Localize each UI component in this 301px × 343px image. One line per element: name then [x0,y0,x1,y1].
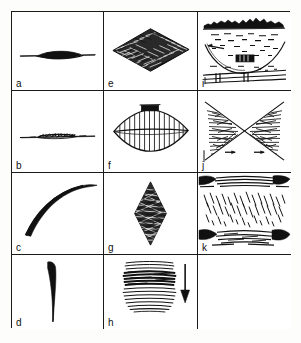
panel-h[interactable]: h [104,255,198,329]
panel-label-k: k [202,243,207,253]
ragged-line-sketch [12,91,103,172]
convex-arc-sketch [12,173,103,254]
banded-hatch-layers-sketch [198,173,291,254]
panel-d[interactable]: d [12,255,104,329]
tall-diamond-fill-sketch [104,173,197,254]
panel-label-j: j [202,161,204,171]
panel-g[interactable]: g [104,173,198,255]
panel-label-i: i [202,79,204,89]
panel-label-e: e [108,79,114,89]
panel-label-f: f [108,161,111,171]
figure-plate: a [11,11,290,328]
bowtie-scribble-sketch [198,91,291,172]
panel-e[interactable]: e [104,12,198,91]
panel-k[interactable]: k [198,173,291,255]
panel-label-g: g [108,243,114,253]
panel-label-c: c [16,243,21,253]
panel-i[interactable]: i [198,12,291,91]
flat-diamond-fill-sketch [104,12,197,90]
panel-label-a: a [16,79,22,89]
panel-b[interactable]: b [12,91,104,173]
panel-empty [198,255,291,329]
page-background: a [0,0,301,343]
panel-label-h: h [108,318,114,328]
panel-j[interactable]: j [198,91,291,173]
panel-f[interactable]: f [104,91,198,173]
lens-hatched-sketch [104,91,197,172]
panel-label-b: b [16,161,22,171]
banded-scribble-with-arrow-sketch [104,255,197,329]
vertical-taper-curve-sketch [12,255,103,329]
panel-grid: a [12,12,289,327]
landscape-basin-sketch [198,12,291,90]
panel-label-d: d [16,318,22,328]
lens-line-sketch [12,12,103,90]
panel-a[interactable]: a [12,12,104,91]
panel-c[interactable]: c [12,173,104,255]
